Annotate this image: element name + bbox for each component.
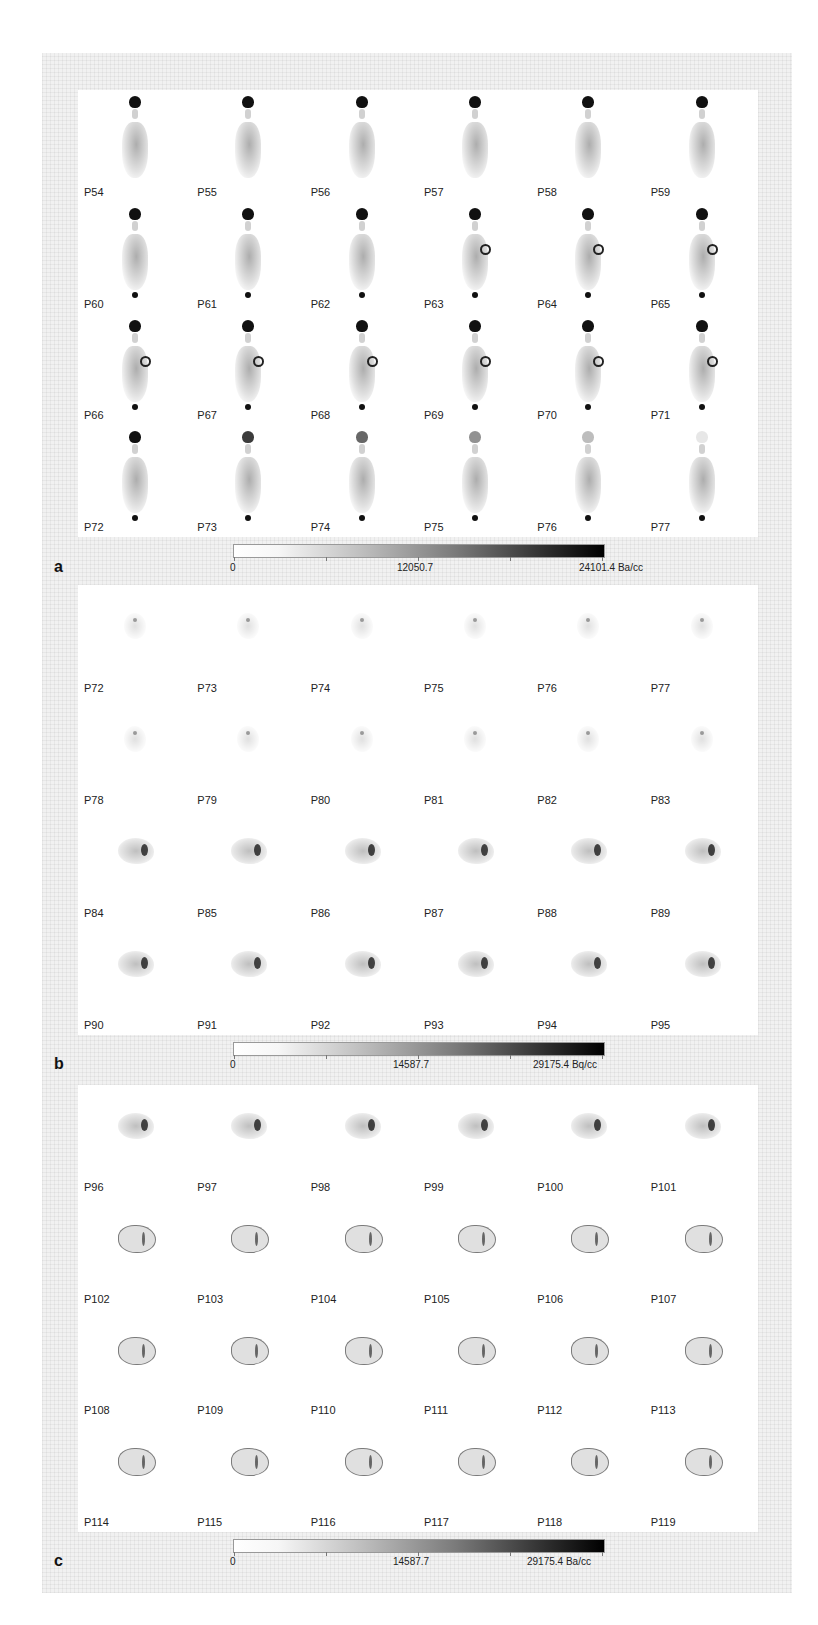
panel-b-axial-pet: P72P73P74P75P76P77P78P79P80P81P82P83P84P… [78,585,758,1035]
image-tile: P101 [645,1085,758,1197]
colorbar-c-min: 0 [230,1556,236,1567]
panel-letter-a: a [54,558,63,576]
axial-slice-image [571,838,607,864]
slice-label: P57 [424,186,444,198]
axial-slice-image [237,726,259,752]
slice-label: P72 [84,682,104,694]
image-tile: P76 [531,425,644,537]
axial-slice-image [124,613,146,639]
slice-label: P114 [84,1516,109,1528]
whole-body-scan-image [687,431,717,529]
axial-slice-image [685,1337,723,1365]
slice-label: P67 [197,409,217,421]
slice-label: P85 [197,907,217,919]
axial-slice-image [118,1448,156,1476]
axial-slice-image [231,1448,269,1476]
axial-slice-image [571,951,607,977]
image-tile: P99 [418,1085,531,1197]
axial-slice-image [351,726,373,752]
slice-label: P66 [84,409,104,421]
slice-label: P54 [84,186,104,198]
image-tile: P113 [645,1309,758,1421]
image-tile: P69 [418,314,531,426]
colorbar-a-mid: 12050.7 [397,562,433,573]
slice-label: P87 [424,907,444,919]
panel-a-whole-body-pet: P54P55P56P57P58P59P60P61P62P63P64P65P66P… [78,90,758,537]
image-tile: P72 [78,425,191,537]
axial-slice-image [577,726,599,752]
colorbar-c-mid: 14587.7 [393,1556,429,1567]
image-tile: P110 [305,1309,418,1421]
colorbar-b-max: 29175.4 Bq/cc [533,1059,597,1070]
image-tile: P85 [191,810,304,923]
slice-label: P75 [424,682,444,694]
slice-label: P119 [651,1516,676,1528]
image-tile: P108 [78,1309,191,1421]
image-tile: P117 [418,1420,531,1532]
image-tile: P58 [531,90,644,202]
slice-label: P73 [197,682,217,694]
image-tile: P75 [418,585,531,698]
axial-slice-image [231,1225,269,1253]
slice-label: P105 [424,1293,450,1305]
image-tile: P86 [305,810,418,923]
image-tile: P73 [191,425,304,537]
whole-body-scan-image [120,320,150,418]
image-tile: P114 [78,1420,191,1532]
slice-label: P65 [651,298,671,310]
image-tile: P93 [418,923,531,1036]
axial-slice-image [464,726,486,752]
image-tile: P94 [531,923,644,1036]
axial-slice-image [231,838,267,864]
axial-slice-image [458,1448,496,1476]
panel-a-grid: P54P55P56P57P58P59P60P61P62P63P64P65P66P… [78,90,758,537]
whole-body-scan-image [347,208,377,306]
axial-slice-image [571,1113,607,1139]
slice-label: P74 [311,682,331,694]
axial-slice-image [571,1448,609,1476]
axial-slice-image [124,726,146,752]
slice-label: P59 [651,186,671,198]
slice-label: P64 [537,298,557,310]
axial-slice-image [345,1337,383,1365]
axial-slice-image [691,726,713,752]
whole-body-scan-image [573,96,603,194]
image-tile: P118 [531,1420,644,1532]
slice-label: P103 [197,1293,223,1305]
image-tile: P60 [78,202,191,314]
slice-label: P97 [197,1181,217,1193]
image-tile: P70 [531,314,644,426]
axial-slice-image [345,1225,383,1253]
image-tile: P68 [305,314,418,426]
image-tile: P90 [78,923,191,1036]
image-tile: P102 [78,1197,191,1309]
image-tile: P72 [78,585,191,698]
image-tile: P82 [531,698,644,811]
image-tile: P115 [191,1420,304,1532]
slice-label: P76 [537,521,557,533]
slice-label: P106 [537,1293,563,1305]
slice-label: P83 [651,794,671,806]
image-tile: P55 [191,90,304,202]
slice-label: P88 [537,907,557,919]
image-tile: P95 [645,923,758,1036]
image-tile: P119 [645,1420,758,1532]
axial-slice-image [685,951,721,977]
whole-body-scan-image [347,431,377,529]
slice-label: P80 [311,794,331,806]
whole-body-scan-image [347,320,377,418]
whole-body-scan-image [573,320,603,418]
axial-slice-image [345,838,381,864]
slice-label: P81 [424,794,444,806]
slice-label: P91 [197,1019,217,1031]
slice-label: P62 [311,298,331,310]
colorbar-a-max: 24101.4 Ba/cc [579,562,643,573]
image-tile: P77 [645,425,758,537]
image-tile: P54 [78,90,191,202]
slice-label: P75 [424,521,444,533]
image-tile: P79 [191,698,304,811]
slice-label: P73 [197,521,217,533]
slice-label: P84 [84,907,104,919]
image-tile: P88 [531,810,644,923]
slice-label: P58 [537,186,557,198]
